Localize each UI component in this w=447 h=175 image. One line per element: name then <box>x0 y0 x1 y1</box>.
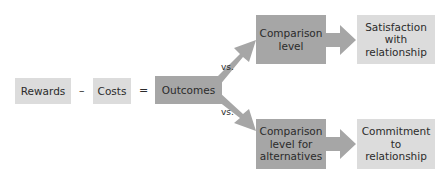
commitment-box: Commitment to relationship <box>357 119 435 169</box>
comparison-level-alternatives-box: Comparison level for alternatives <box>256 119 326 169</box>
satisfaction-label: Satisfaction with relationship <box>361 21 431 59</box>
costs-box: Costs <box>93 78 131 104</box>
rewards-label: Rewards <box>21 85 66 98</box>
equals-operator: = <box>139 84 148 97</box>
comparison-level-alternatives-label: Comparison level for alternatives <box>260 125 323 163</box>
rewards-box: Rewards <box>15 78 71 104</box>
commitment-label: Commitment to relationship <box>361 125 431 163</box>
comparison-level-label: Comparison level <box>260 27 323 52</box>
arrow-to-commitment <box>326 129 356 159</box>
satisfaction-box: Satisfaction with relationship <box>357 15 435 64</box>
vs-label-bottom: vs. <box>221 107 234 117</box>
minus-operator: – <box>79 84 85 97</box>
arrow-to-satisfaction <box>326 25 356 55</box>
outcomes-box: Outcomes <box>155 76 222 104</box>
costs-label: Costs <box>98 85 127 98</box>
outcomes-label: Outcomes <box>162 84 215 97</box>
comparison-level-box: Comparison level <box>256 15 326 64</box>
vs-label-top: vs. <box>221 62 234 72</box>
